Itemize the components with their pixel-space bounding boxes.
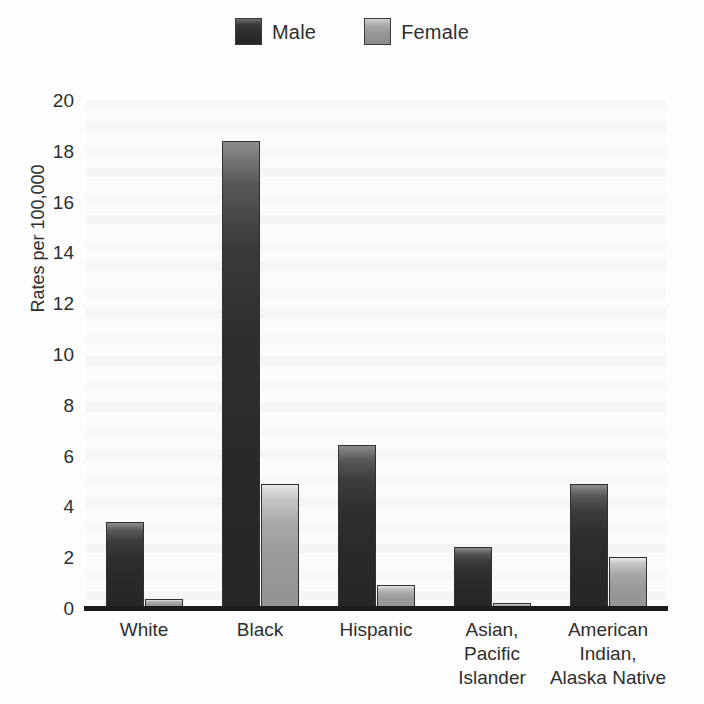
chart-legend: Male Female [0, 18, 704, 45]
legend-label-male: Male [272, 22, 316, 42]
x-axis-category-label: American Indian, Alaska Native [544, 618, 672, 690]
y-tick-label: 12 [16, 294, 74, 313]
legend-item-male: Male [235, 18, 316, 45]
bar-female [261, 484, 299, 608]
bar-chart: Male Female Rates per 100,000 2018161412… [0, 0, 704, 704]
bar-male [222, 141, 260, 608]
y-tick-label: 10 [16, 345, 74, 364]
y-tick-label: 18 [16, 141, 74, 160]
bar-male [454, 547, 492, 608]
legend-label-female: Female [401, 22, 469, 42]
y-tick-label: 6 [16, 446, 74, 465]
bar-female [609, 557, 647, 608]
y-tick-label: 2 [16, 548, 74, 567]
x-axis-category-label: Hispanic [312, 618, 440, 642]
bar-female [377, 585, 415, 608]
x-axis-category-label: White [80, 618, 208, 642]
y-axis-ticks: 20181614121086420 [12, 0, 74, 704]
y-tick-label: 20 [16, 91, 74, 110]
plot-area [86, 100, 666, 608]
x-axis-category-label: Asian, Pacific Islander [428, 618, 556, 690]
y-tick-label: 16 [16, 192, 74, 211]
bar-male [570, 484, 608, 608]
x-axis-category-label: Black [196, 618, 324, 642]
male-swatch-icon [235, 18, 262, 45]
y-tick-label: 14 [16, 243, 74, 262]
bar-male [338, 445, 376, 608]
y-tick-label: 0 [16, 599, 74, 618]
x-axis-labels: WhiteBlackHispanicAsian, Pacific Islande… [86, 618, 666, 704]
bar-male [106, 522, 144, 608]
y-tick-label: 8 [16, 395, 74, 414]
x-axis-line [84, 606, 668, 611]
female-swatch-icon [364, 18, 391, 45]
y-tick-label: 4 [16, 497, 74, 516]
legend-item-female: Female [364, 18, 469, 45]
